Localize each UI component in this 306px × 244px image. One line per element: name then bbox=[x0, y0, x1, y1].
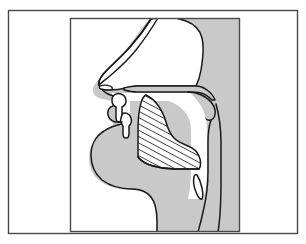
nostril bbox=[99, 85, 112, 90]
figure-container: Mid-sagittal section of the human vocal … bbox=[0, 0, 306, 244]
illustration-panel bbox=[70, 18, 240, 232]
vocal-tract-diagram bbox=[0, 0, 306, 244]
